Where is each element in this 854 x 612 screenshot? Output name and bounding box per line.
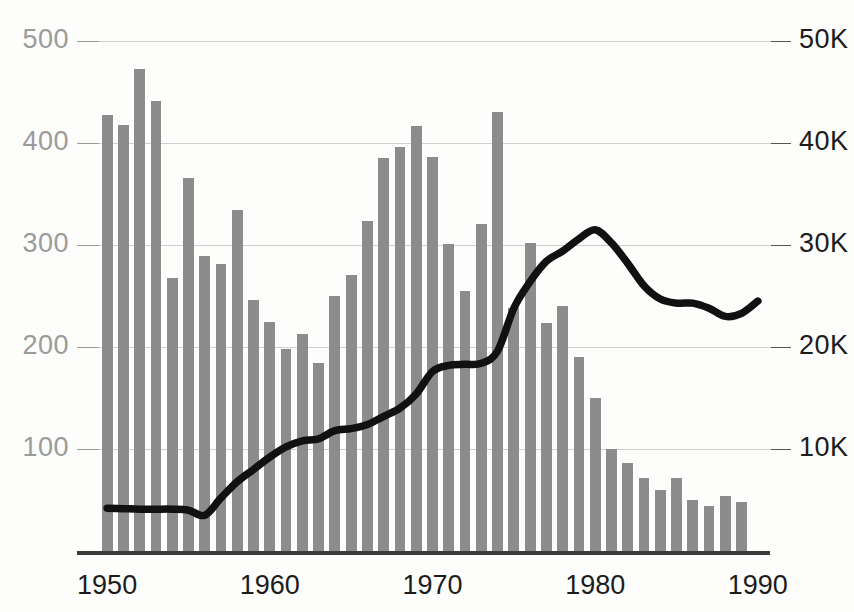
bar-1961 [281,349,292,551]
x-axis-label-1950: 1950 [67,570,147,601]
bar-1979 [574,357,585,551]
y-left-label-100: 100 [22,432,69,463]
bar-1963 [313,363,324,551]
bar-1964 [329,296,340,551]
bar-1956 [199,256,210,551]
left-tick-400 [77,143,99,144]
right-tick-40K [771,143,791,144]
bar-1950 [102,115,113,551]
bar-1967 [378,158,389,551]
bar-1959 [248,300,259,551]
bar-1982 [622,463,633,551]
bar-1978 [557,306,568,551]
bar-1974 [492,112,503,551]
right-tick-20K [771,347,791,348]
y-left-label-400: 400 [22,126,69,157]
left-tick-300 [77,245,99,246]
bar-1983 [639,478,650,551]
bar-1965 [346,275,357,551]
left-tick-100 [77,449,99,450]
bar-1977 [541,323,552,551]
bar-1960 [264,322,275,552]
y-left-label-500: 500 [22,24,69,55]
bar-1962 [297,334,308,551]
left-tick-500 [77,41,99,42]
x-axis-label-1990: 1990 [718,570,798,601]
gridline-400 [99,143,771,144]
bar-1988 [720,496,731,551]
bar-1985 [671,478,682,551]
left-tick-200 [77,347,99,348]
bar-1951 [118,125,129,551]
y-right-label-10K: 10K [799,432,849,463]
bar-1972 [460,291,471,551]
bar-1986 [687,500,698,551]
y-right-label-40K: 40K [799,126,849,157]
x-axis-label-1960: 1960 [230,570,310,601]
y-right-label-30K: 30K [799,228,849,259]
bar-1973 [476,224,487,551]
right-tick-50K [771,41,791,42]
bar-1969 [411,126,422,551]
bar-1970 [427,157,438,551]
bar-1984 [655,490,666,551]
bar-1954 [167,278,178,551]
x-axis-baseline [77,551,770,555]
y-right-label-50K: 50K [799,24,849,55]
bar-1966 [362,221,373,551]
right-tick-30K [771,245,791,246]
bar-1976 [525,243,536,551]
bar-1952 [134,69,145,551]
gridline-500 [99,41,771,42]
y-left-label-200: 200 [22,330,69,361]
bar-1958 [232,210,243,551]
bar-1953 [151,101,162,551]
bar-1987 [704,506,715,551]
y-right-label-20K: 20K [799,330,849,361]
bar-1975 [508,308,519,551]
bar-1989 [736,502,747,551]
x-axis-label-1980: 1980 [555,570,635,601]
bar-1957 [216,264,227,551]
top-edge [0,0,854,3]
x-axis-label-1970: 1970 [393,570,473,601]
y-left-label-300: 300 [22,228,69,259]
bar-1980 [590,398,601,551]
bar-1955 [183,178,194,551]
bar-1981 [606,449,617,551]
bar-1971 [443,244,454,551]
bar-1968 [395,147,406,551]
chart-canvas: 50040030020010050K40K30K20K10K1950196019… [0,0,854,612]
right-tick-10K [771,449,791,450]
